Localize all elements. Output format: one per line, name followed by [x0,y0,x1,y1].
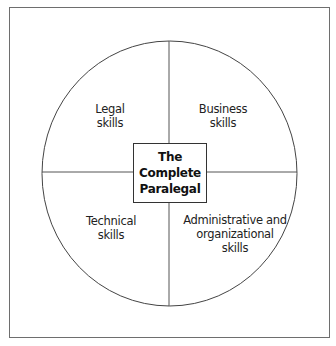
quadrant-line: Business [193,102,253,116]
quadrant-business-skills: Business skills [193,102,253,130]
center-line: The [158,149,182,165]
center-box: The Complete Paralegal [133,143,207,203]
center-line: Complete [139,165,201,181]
quadrant-line: skills [78,228,144,242]
quadrant-line: organizational [174,227,296,241]
quadrant-administrative-skills: Administrative and organizational skills [174,213,296,255]
quadrant-line: Technical [78,214,144,228]
quadrant-legal-skills: Legal skills [80,102,140,130]
quadrant-technical-skills: Technical skills [78,214,144,242]
quadrant-line: skills [80,116,140,130]
quadrant-line: skills [174,241,296,255]
center-line: Paralegal [140,181,201,197]
quadrant-line: Legal [80,102,140,116]
quadrant-line: skills [193,116,253,130]
quadrant-line: Administrative and [174,213,296,227]
